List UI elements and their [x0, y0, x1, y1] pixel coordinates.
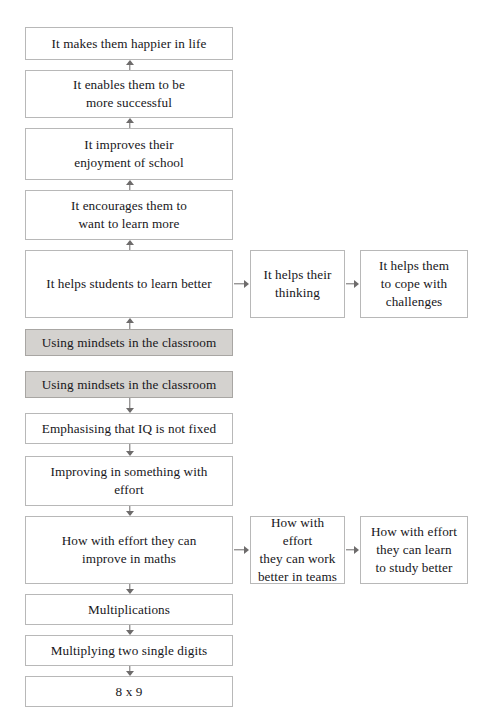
flowchart-arrow-right: [234, 279, 249, 289]
flowchart-node-label: Using mindsets in the classroom: [42, 376, 217, 394]
arrow-head: [354, 546, 359, 554]
flowchart-node-label: How with effort they can learn to study …: [371, 523, 457, 576]
arrow-head: [126, 118, 134, 123]
arrow-head: [126, 318, 134, 323]
flowchart-node-n4: It encourages them to want to learn more: [25, 190, 233, 240]
flowchart-node-n6: It helps their thinking: [250, 250, 345, 318]
flowchart-arrow-down: [124, 398, 136, 413]
arrow-head: [126, 589, 134, 594]
flowchart-node-label: How with effort they can work better in …: [257, 514, 338, 585]
flowchart-arrow-down: [124, 444, 136, 456]
flowchart-arrow-down: [124, 666, 136, 676]
flowchart-node-n2: It enables them to be more successful: [25, 70, 233, 118]
arrow-head: [354, 280, 359, 288]
flowchart-node-n16: Multiplying two single digits: [25, 635, 233, 666]
flowchart-node-label: It helps their thinking: [263, 266, 331, 302]
flowchart-node-label: 8 x 9: [116, 683, 143, 701]
flowchart-node-label: It encourages them to want to learn more: [71, 197, 187, 233]
flowchart-arrow-up: [124, 318, 136, 329]
arrow-head: [126, 180, 134, 185]
flowchart-node-label: How with effort they can improve in math…: [62, 532, 197, 568]
arrow-head: [126, 511, 134, 516]
flowchart-arrow-down: [124, 625, 136, 635]
arrow-head: [126, 630, 134, 635]
flowchart-node-label: It enables them to be more successful: [73, 76, 185, 112]
flowchart-node-n15: Multiplications: [25, 594, 233, 625]
flowchart-arrow-right: [346, 279, 359, 289]
flowchart-node-label: Emphasising that IQ is not fixed: [42, 420, 216, 438]
flowchart-node-label: It makes them happier in life: [52, 35, 207, 53]
flowchart-node-n5: It helps students to learn better: [25, 250, 233, 318]
flowchart-node-n3: It improves their enjoyment of school: [25, 128, 233, 180]
flowchart-node-n8: Using mindsets in the classroom: [25, 329, 233, 356]
flowchart-node-label: Multiplying two single digits: [51, 642, 207, 660]
flowchart-arrow-right: [346, 545, 359, 555]
flowchart-node-n14: How with effort they can learn to study …: [360, 516, 468, 584]
flowchart-node-label: Improving in something with effort: [51, 463, 208, 499]
flowchart-node-n10: Emphasising that IQ is not fixed: [25, 413, 233, 444]
flowchart-node-n1: It makes them happier in life: [25, 27, 233, 60]
flowchart-arrow-down: [124, 584, 136, 594]
arrow-head: [244, 546, 249, 554]
flowchart-arrow-up: [124, 118, 136, 128]
arrow-head: [244, 280, 249, 288]
flowchart-canvas: It makes them happier in lifeIt enables …: [0, 0, 492, 722]
flowchart-arrow-right: [234, 545, 249, 555]
flowchart-arrow-down: [124, 506, 136, 516]
arrow-head: [126, 671, 134, 676]
flowchart-node-label: It helps them to cope with challenges: [379, 257, 449, 310]
flowchart-node-label: It helps students to learn better: [46, 275, 212, 293]
flowchart-node-n9: Using mindsets in the classroom: [25, 371, 233, 398]
flowchart-node-label: It improves their enjoyment of school: [74, 136, 184, 172]
flowchart-node-n7: It helps them to cope with challenges: [360, 250, 468, 318]
arrow-head: [126, 240, 134, 245]
flowchart-node-n13: How with effort they can work better in …: [250, 516, 345, 584]
arrow-head: [126, 451, 134, 456]
arrow-head: [126, 408, 134, 413]
arrow-head: [126, 60, 134, 65]
flowchart-node-n17: 8 x 9: [25, 676, 233, 707]
flowchart-node-n11: Improving in something with effort: [25, 456, 233, 506]
flowchart-arrow-up: [124, 240, 136, 250]
flowchart-node-n12: How with effort they can improve in math…: [25, 516, 233, 584]
flowchart-arrow-up: [124, 60, 136, 70]
flowchart-node-label: Multiplications: [88, 601, 170, 619]
flowchart-arrow-up: [124, 180, 136, 190]
flowchart-node-label: Using mindsets in the classroom: [42, 334, 217, 352]
